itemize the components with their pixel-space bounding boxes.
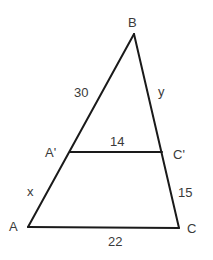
length-label-ba-prime: 30: [74, 85, 88, 100]
length-label-a-prime-a: x: [27, 184, 34, 199]
side-bc: [134, 34, 179, 228]
side-ba: [28, 34, 134, 227]
vertex-label-a: A: [9, 219, 18, 234]
length-label-c-prime-c: 15: [178, 185, 192, 200]
length-label-bc-prime: y: [158, 84, 165, 99]
vertex-label-c: C: [187, 221, 196, 236]
side-ac: [28, 227, 179, 228]
triangle-diagram: B A C A' C' 30 y 14 x 15 22: [0, 0, 213, 260]
vertex-label-a-prime: A': [45, 145, 56, 160]
length-label-ac: 22: [108, 234, 122, 249]
vertex-label-c-prime: C': [173, 147, 185, 162]
vertex-label-b: B: [128, 15, 137, 30]
length-label-a-prime-c-prime: 14: [110, 134, 124, 149]
